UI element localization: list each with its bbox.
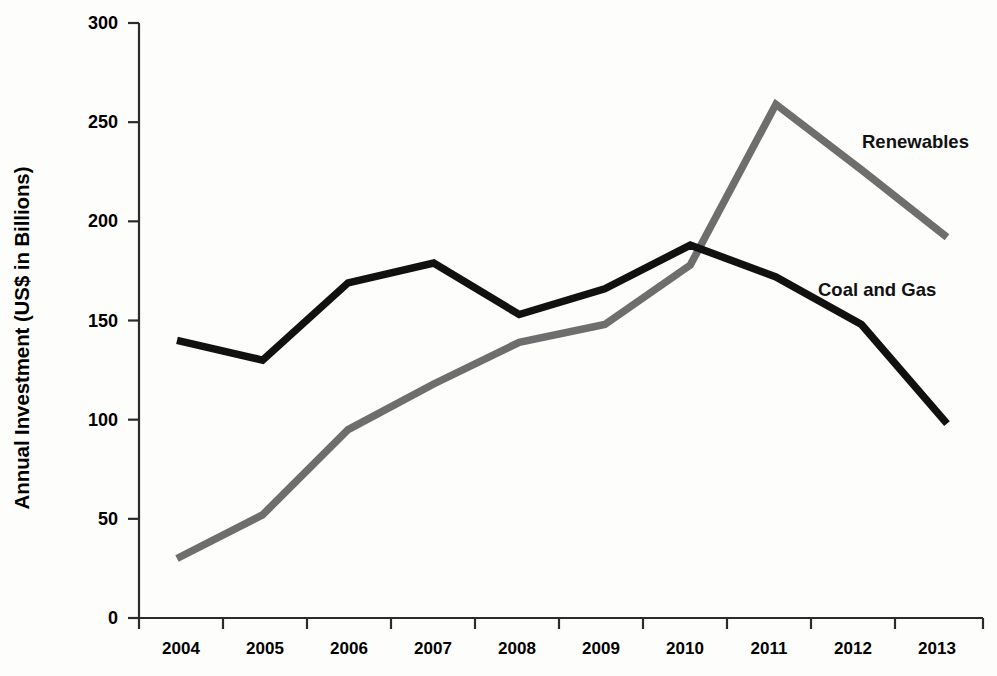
x-tick-label: 2009	[582, 639, 620, 659]
plot-area	[0, 0, 997, 676]
y-tick-label: 0	[60, 609, 118, 627]
y-tick-label: 100	[60, 411, 118, 429]
y-tick-label-wrap: 150	[60, 321, 118, 322]
series-label-renewables: Renewables	[862, 131, 969, 153]
y-axis-ticks	[128, 23, 139, 618]
x-tick-label: 2012	[834, 639, 872, 659]
x-tick-label: 2010	[666, 639, 704, 659]
y-tick-label-wrap: 100	[60, 420, 118, 421]
y-tick-label-wrap: 50	[60, 519, 118, 520]
y-tick-label: 150	[60, 312, 118, 330]
y-tick-label: 300	[60, 14, 118, 32]
x-tick-label: 2008	[498, 639, 536, 659]
x-tick-label: 2013	[918, 639, 956, 659]
x-tick-label: 2004	[162, 639, 200, 659]
y-tick-label-wrap: 250	[60, 122, 118, 123]
x-tick-label: 2005	[246, 639, 284, 659]
y-tick-label: 250	[60, 113, 118, 131]
x-axis-ticks	[139, 618, 983, 629]
data-series-lines	[177, 104, 947, 558]
y-tick-label-wrap: 0	[60, 618, 118, 619]
x-tick-label: 2006	[330, 639, 368, 659]
y-tick-label-wrap: 300	[60, 23, 118, 24]
x-tick-label: 2011	[751, 639, 788, 659]
line-chart: Annual Investment (US$ in Billions) 0501…	[0, 0, 997, 676]
series-label-coal-and-gas: Coal and Gas	[818, 279, 936, 301]
x-tick-label: 2007	[414, 639, 452, 659]
y-tick-label-wrap: 200	[60, 221, 118, 222]
y-tick-label: 200	[60, 212, 118, 230]
y-tick-label: 50	[60, 510, 118, 528]
